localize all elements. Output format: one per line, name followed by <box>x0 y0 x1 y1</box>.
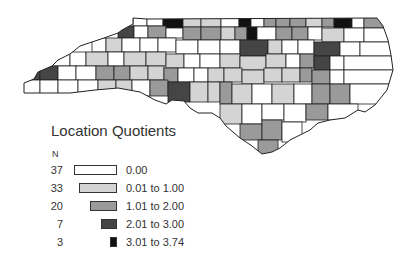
legend-swatch <box>110 237 117 247</box>
legend-row: 20 1.01 to 2.00 <box>0 200 220 214</box>
legend-count: 3 <box>47 236 63 248</box>
legend-label: 2.01 to 3.00 <box>126 218 184 230</box>
legend-count: 33 <box>47 182 63 194</box>
legend-label: 0.01 to 1.00 <box>126 182 184 194</box>
legend-count-header: N <box>52 149 59 159</box>
legend-label: 0.00 <box>126 164 147 176</box>
legend-title: Location Quotients <box>51 122 176 139</box>
legend-swatch <box>79 183 117 193</box>
legend-row: 37 0.00 <box>0 164 220 178</box>
legend-row: 3 3.01 to 3.74 <box>0 236 220 250</box>
legend-count: 7 <box>47 218 63 230</box>
legend-row: 33 0.01 to 1.00 <box>0 182 220 196</box>
legend-swatch <box>101 219 117 229</box>
legend-count: 37 <box>47 164 63 176</box>
legend-swatch <box>90 201 117 211</box>
legend-swatch <box>74 165 117 175</box>
legend-count: 20 <box>47 200 63 212</box>
legend-row: 7 2.01 to 3.00 <box>0 218 220 232</box>
legend-label: 1.01 to 2.00 <box>126 200 184 212</box>
legend-label: 3.01 to 3.74 <box>126 236 184 248</box>
